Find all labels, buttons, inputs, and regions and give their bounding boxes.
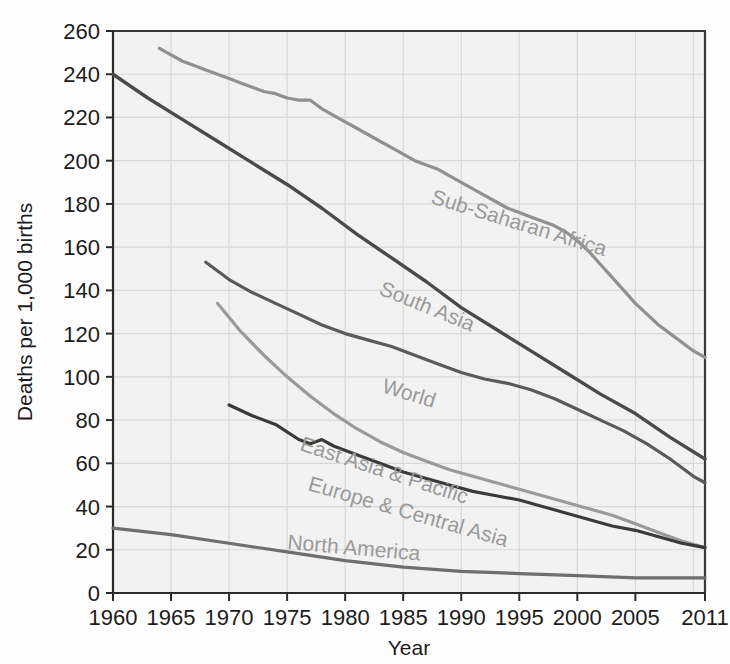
x-tick-label: 1965 [147, 605, 196, 630]
line-chart: 1960196519701975198019851990199520002005… [0, 0, 730, 664]
x-tick-label: 2011 [681, 605, 728, 630]
x-tick-label: 2000 [553, 605, 602, 630]
y-tick-label: 140 [63, 278, 100, 303]
x-axis-tick-labels: 1960196519701975198019851990199520002005… [89, 605, 729, 630]
y-axis-title: Deaths per 1,000 births [13, 203, 36, 421]
y-tick-label: 120 [63, 322, 100, 347]
x-axis-title: Year [388, 636, 430, 659]
y-tick-label: 260 [63, 19, 100, 44]
x-tick-label: 1980 [321, 605, 370, 630]
x-tick-label: 1990 [437, 605, 486, 630]
x-tick-label: 1975 [263, 605, 312, 630]
x-tick-label: 1995 [495, 605, 544, 630]
x-tick-label: 1985 [379, 605, 428, 630]
x-tick-label: 1960 [89, 605, 138, 630]
y-tick-label: 240 [63, 62, 100, 87]
chart-figure: 1960196519701975198019851990199520002005… [0, 0, 730, 664]
y-tick-label: 160 [63, 235, 100, 260]
y-tick-label: 100 [63, 365, 100, 390]
y-tick-label: 180 [63, 192, 100, 217]
y-axis-tick-labels: 020406080100120140160180200220240260 [63, 19, 100, 606]
y-tick-label: 0 [88, 581, 100, 606]
x-tick-label: 1970 [205, 605, 254, 630]
y-tick-label: 80 [76, 408, 100, 433]
y-tick-label: 220 [63, 105, 100, 130]
y-tick-label: 40 [76, 495, 100, 520]
y-tick-label: 60 [76, 451, 100, 476]
x-tick-label: 2005 [611, 605, 660, 630]
y-tick-label: 20 [76, 538, 100, 563]
y-tick-label: 200 [63, 149, 100, 174]
